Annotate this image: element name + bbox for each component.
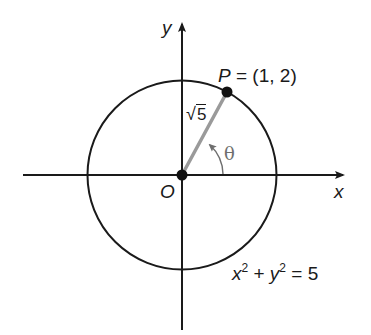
radicand: 5: [196, 104, 206, 124]
eq-x: x: [232, 263, 242, 284]
y-axis-label: y: [162, 18, 172, 37]
point-p-label: P = (1, 2): [218, 66, 297, 85]
eq-equals: =: [291, 263, 302, 284]
origin-point: [177, 170, 188, 181]
eq-y-exponent: 2: [279, 261, 286, 275]
x-axis-label: x: [334, 182, 344, 201]
eq-plus: +: [253, 263, 264, 284]
eq-x-exponent: 2: [242, 261, 249, 275]
circle-equation: x2 + y2 = 5: [232, 262, 318, 283]
radical-sign: √: [186, 104, 196, 124]
point-p: [222, 87, 233, 98]
diagram-graphics: [0, 0, 371, 335]
point-equals: =: [236, 65, 247, 86]
point-name: P: [218, 65, 231, 86]
diagram-canvas: y x O P = (1, 2) √5 θ x2 + y2 = 5: [0, 0, 371, 335]
theta-label: θ: [224, 145, 235, 163]
radius-label: √5: [186, 105, 206, 123]
origin-label: O: [160, 182, 175, 201]
eq-y: y: [270, 263, 280, 284]
eq-rhs: 5: [308, 263, 319, 284]
angle-arc: [210, 145, 223, 174]
point-coords: (1, 2): [252, 65, 296, 86]
